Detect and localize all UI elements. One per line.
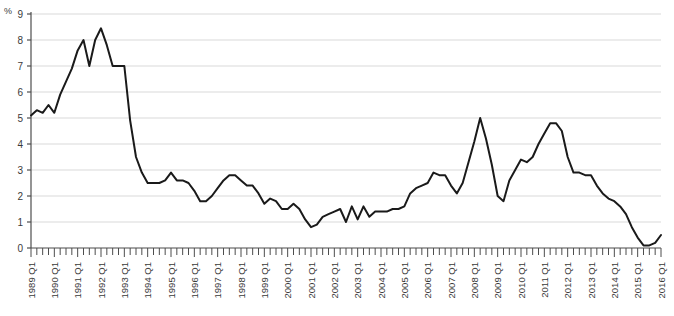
x-tick-label: 2014 Q1 [609,262,620,298]
x-tick-label: 1991 Q1 [72,262,83,298]
x-tick-label: 1994 Q1 [142,262,153,298]
x-tick-label: 2003 Q1 [352,262,363,298]
line-chart: % 01234567891989 Q11990 Q11991 Q11992 Q1… [0,0,674,316]
x-axis-ticks [31,248,661,257]
y-axis-ticks: 0123456789 [17,9,31,254]
chart-plot-area: 01234567891989 Q11990 Q11991 Q11992 Q119… [0,0,674,316]
x-tick-label: 1995 Q1 [166,262,177,298]
x-tick-label: 2015 Q1 [632,262,643,298]
y-tick-label: 2 [17,191,23,202]
x-tick-label: 2002 Q1 [329,262,340,298]
y-tick-label: 6 [17,87,23,98]
x-tick-label: 2011 Q1 [539,262,550,298]
x-tick-label: 2016 Q1 [656,262,667,298]
y-tick-label: 3 [17,165,23,176]
y-tick-label: 4 [17,139,23,150]
x-tick-label: 2007 Q1 [446,262,457,298]
x-tick-label: 2004 Q1 [376,262,387,298]
x-tick-label: 1997 Q1 [212,262,223,298]
x-tick-label: 2005 Q1 [399,262,410,298]
x-axis-labels: 1989 Q11990 Q11991 Q11992 Q11993 Q11994 … [26,262,667,298]
x-tick-label: 1993 Q1 [119,262,130,298]
x-tick-label: 2013 Q1 [586,262,597,298]
y-tick-label: 8 [17,35,23,46]
x-tick-label: 1992 Q1 [96,262,107,298]
x-tick-label: 2001 Q1 [306,262,317,298]
x-tick-label: 1996 Q1 [189,262,200,298]
x-tick-label: 2010 Q1 [516,262,527,298]
data-series-line [31,28,661,245]
x-tick-label: 2006 Q1 [422,262,433,298]
x-tick-label: 2009 Q1 [492,262,503,298]
x-tick-label: 1998 Q1 [236,262,247,298]
y-tick-label: 1 [17,217,23,228]
x-tick-label: 2008 Q1 [469,262,480,298]
gridlines [31,14,661,222]
y-tick-label: 9 [17,9,23,20]
y-tick-label: 0 [17,243,23,254]
y-tick-label: 7 [17,61,23,72]
x-tick-label: 2012 Q1 [562,262,573,298]
x-tick-label: 1989 Q1 [26,262,37,298]
y-tick-label: 5 [17,113,23,124]
x-tick-label: 1999 Q1 [259,262,270,298]
x-tick-label: 2000 Q1 [282,262,293,298]
x-tick-label: 1990 Q1 [49,262,60,298]
